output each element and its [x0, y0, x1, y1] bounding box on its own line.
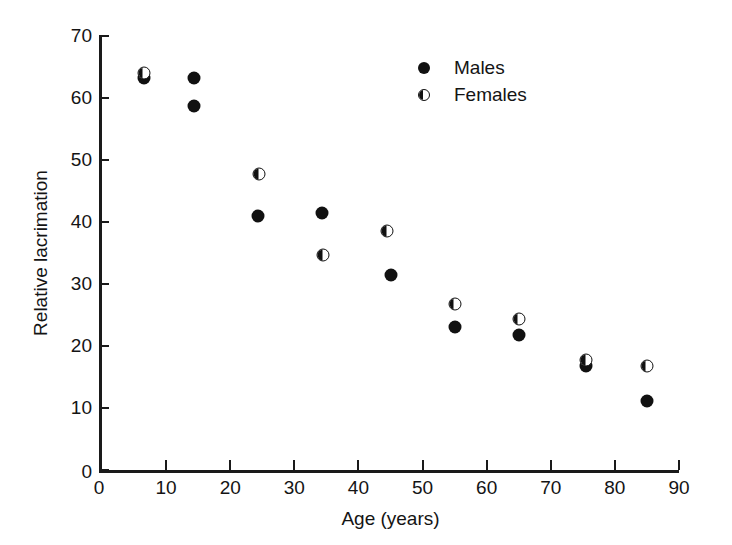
data-point-male	[512, 329, 525, 342]
y-tick-mark	[99, 159, 109, 161]
y-tick-label: 70	[46, 25, 92, 47]
x-tick-mark	[486, 460, 488, 470]
chart-figure: 010203040506070 0102030405060708090 Rela…	[0, 0, 732, 545]
y-tick-mark	[99, 345, 109, 347]
x-tick-label: 30	[284, 477, 305, 499]
y-tick-mark	[99, 469, 109, 471]
data-point-male	[251, 209, 264, 222]
legend-label: Males	[454, 57, 505, 79]
legend-item-males: Males	[418, 54, 527, 81]
x-tick-mark	[614, 460, 616, 470]
data-point-male	[448, 321, 461, 334]
y-tick-mark	[99, 283, 109, 285]
x-tick-label: 80	[604, 477, 625, 499]
x-tick-mark	[165, 460, 167, 470]
x-tick-label: 40	[348, 477, 369, 499]
legend-item-females: Females	[418, 81, 527, 108]
y-tick-label: 10	[46, 397, 92, 419]
data-point-female	[640, 360, 653, 373]
data-point-male	[384, 268, 397, 281]
data-point-female	[448, 298, 461, 311]
x-tick-label: 50	[412, 477, 433, 499]
data-point-female	[253, 167, 266, 180]
filled-circle-icon	[418, 62, 430, 74]
scatter-plot-area: 010203040506070 0102030405060708090 Rela…	[0, 0, 732, 545]
x-axis-title: Age (years)	[102, 508, 679, 530]
y-tick-mark	[99, 407, 109, 409]
y-tick-mark	[99, 97, 109, 99]
data-point-male	[187, 100, 200, 113]
y-tick-mark	[99, 221, 109, 223]
chart-legend: MalesFemales	[418, 54, 527, 108]
x-tick-label: 90	[668, 477, 689, 499]
x-tick-label: 60	[476, 477, 497, 499]
data-point-male	[187, 71, 200, 84]
y-tick-label: 60	[46, 87, 92, 109]
data-point-female	[580, 353, 593, 366]
x-tick-mark	[422, 460, 424, 470]
x-tick-label: 20	[220, 477, 241, 499]
x-tick-mark	[293, 460, 295, 470]
data-point-male	[315, 206, 328, 219]
data-point-male	[640, 394, 653, 407]
x-tick-mark	[678, 460, 680, 470]
x-axis-line	[99, 470, 679, 473]
y-tick-label: 20	[46, 335, 92, 357]
half-filled-circle-icon	[418, 89, 430, 101]
x-tick-mark	[550, 460, 552, 470]
y-tick-mark	[99, 35, 109, 37]
data-point-female	[137, 67, 150, 80]
x-tick-mark	[357, 460, 359, 470]
data-point-female	[512, 313, 525, 326]
y-tick-label: 30	[46, 273, 92, 295]
data-point-female	[317, 248, 330, 261]
legend-label: Females	[454, 84, 527, 106]
y-tick-label: 50	[46, 149, 92, 171]
x-tick-label: 10	[156, 477, 177, 499]
x-tick-label: 70	[540, 477, 561, 499]
data-point-female	[381, 224, 394, 237]
y-tick-label: 0	[46, 461, 92, 483]
x-tick-mark	[229, 460, 231, 470]
y-tick-label: 40	[46, 211, 92, 233]
y-axis-title: Relative lacrimation	[30, 170, 52, 336]
x-tick-label: 0	[94, 477, 105, 499]
